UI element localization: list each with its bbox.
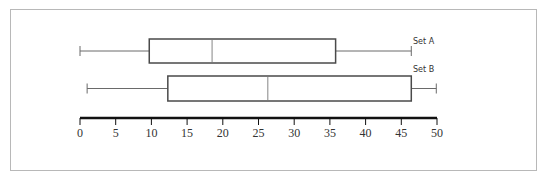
tick-label: 45 bbox=[395, 126, 407, 140]
box-set-b bbox=[87, 76, 436, 101]
tick-label: 50 bbox=[431, 126, 443, 140]
iqr-box bbox=[168, 76, 411, 101]
boxes-group bbox=[80, 39, 436, 101]
tick-label: 30 bbox=[288, 126, 300, 140]
tick-label: 15 bbox=[181, 126, 193, 140]
tick-label: 20 bbox=[217, 126, 229, 140]
tick-label: 25 bbox=[253, 126, 265, 140]
set-a-label: Set A bbox=[413, 37, 435, 46]
box-set-a bbox=[80, 39, 411, 63]
iqr-box bbox=[149, 39, 335, 63]
tick-label: 5 bbox=[113, 126, 119, 140]
box-plot-chart: 05101520253035404550 Set A Set B bbox=[0, 0, 551, 185]
tick-label: 0 bbox=[77, 126, 83, 140]
set-b-label: Set B bbox=[413, 65, 434, 74]
tick-label: 10 bbox=[145, 126, 157, 140]
x-axis: 05101520253035404550 bbox=[77, 118, 443, 140]
tick-label: 35 bbox=[324, 126, 336, 140]
tick-label: 40 bbox=[360, 126, 372, 140]
